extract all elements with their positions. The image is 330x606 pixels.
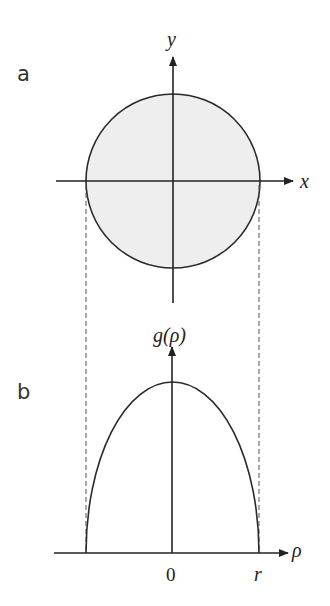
x-axis-label: x <box>299 170 309 192</box>
rho-axis-label: ρ <box>291 539 302 562</box>
panel-b-label: b <box>17 380 30 404</box>
g-axis-label: g(ρ) <box>153 324 186 347</box>
panel-a-label: a <box>17 62 30 86</box>
panel-a: a x y <box>17 28 309 303</box>
tick-label-r: r <box>254 563 262 585</box>
tick-label-zero: 0 <box>166 564 176 585</box>
diagram-canvas: a x y b g(ρ) ρ 0 r <box>0 0 330 606</box>
y-axis-label: y <box>165 28 176 51</box>
